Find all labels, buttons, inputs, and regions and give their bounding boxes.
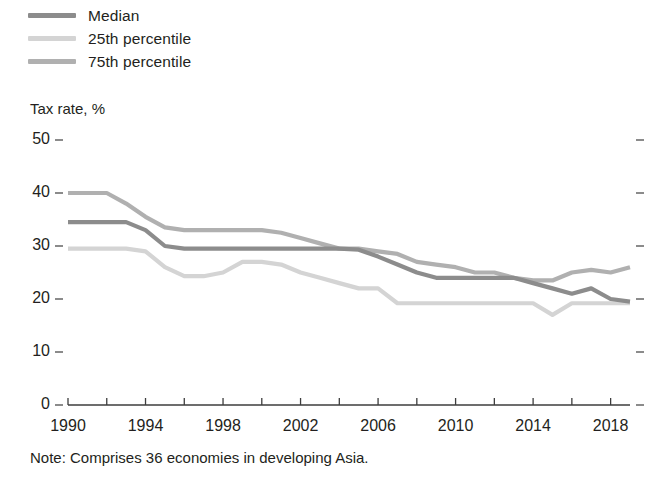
y-tick-label: 30 bbox=[32, 236, 50, 253]
x-tick-label: 2018 bbox=[593, 417, 629, 434]
y-tick-label: 10 bbox=[32, 342, 50, 359]
x-tick-labels: 19901994199820022006201020142018 bbox=[50, 417, 628, 434]
series-line-median bbox=[68, 222, 630, 302]
y-ticks-right bbox=[636, 140, 644, 405]
plot-svg: 01020304050 1990199419982002200620102014… bbox=[0, 0, 670, 478]
x-tick-label: 2014 bbox=[515, 417, 551, 434]
y-tick-label: 20 bbox=[32, 289, 50, 306]
x-tick-label: 2006 bbox=[360, 417, 396, 434]
x-ticks bbox=[68, 398, 611, 405]
x-tick-label: 1998 bbox=[205, 417, 241, 434]
x-tick-label: 1994 bbox=[128, 417, 164, 434]
y-tick-label: 0 bbox=[41, 395, 50, 412]
y-ticks-left bbox=[55, 140, 63, 405]
plot-area: 01020304050 1990199419982002200620102014… bbox=[0, 0, 670, 478]
x-tick-label: 2010 bbox=[438, 417, 474, 434]
x-tick-label: 1990 bbox=[50, 417, 86, 434]
y-tick-label: 40 bbox=[32, 183, 50, 200]
series-lines bbox=[68, 193, 630, 315]
chart-note: Note: Comprises 36 economies in developi… bbox=[30, 449, 369, 466]
tax-rate-line-chart: Median 25th percentile 75th percentile T… bbox=[0, 0, 670, 478]
y-tick-label: 50 bbox=[32, 130, 50, 147]
y-tick-labels: 01020304050 bbox=[32, 130, 50, 412]
x-tick-label: 2002 bbox=[283, 417, 319, 434]
